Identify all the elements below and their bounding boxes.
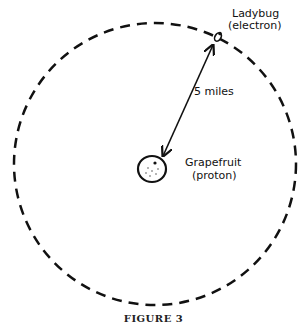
- figure-caption: FIGURE 3: [0, 313, 307, 324]
- atom-diagram: Ladybug (electron) 5 miles Grapefruit (p…: [0, 0, 307, 332]
- electron-label-line2: (electron): [228, 19, 282, 32]
- grapefruit-icon: [138, 156, 166, 182]
- proton-label-line1: Grapefruit: [185, 156, 242, 169]
- distance-arrow: [163, 45, 213, 156]
- distance-label: 5 miles: [194, 85, 234, 98]
- proton-label-line2: (proton): [192, 169, 237, 182]
